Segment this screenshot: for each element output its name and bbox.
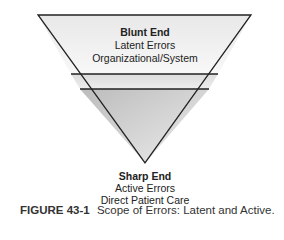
figure-label: FIGURE 43-1 <box>20 204 90 216</box>
blunt-end-line2: Organizational/System <box>0 52 284 64</box>
sharp-end-title: Sharp End <box>0 170 284 182</box>
figure-caption-text: Scope of Errors: Latent and Active. <box>97 204 275 216</box>
blunt-end-title: Blunt End <box>0 26 284 38</box>
figure-caption: FIGURE 43-1 Scope of Errors: Latent and … <box>20 204 275 216</box>
blunt-end-line1: Latent Errors <box>0 39 284 51</box>
sharp-end-line1: Active Errors <box>0 182 284 194</box>
middle-band <box>71 74 218 89</box>
